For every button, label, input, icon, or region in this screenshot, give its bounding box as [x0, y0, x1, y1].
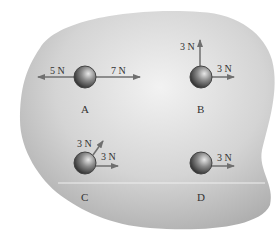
ball-icon — [190, 152, 212, 174]
diagram-canvas — [0, 0, 280, 240]
force-label: 3 N — [217, 153, 232, 163]
force-label: 3 N — [180, 42, 195, 52]
ball-icon — [74, 66, 96, 88]
ball-icon — [74, 152, 96, 174]
force-diagram: 5 N 7 N A 3 N 3 N B 3 N 3 N C 3 N D — [0, 0, 280, 240]
object-label: C — [81, 192, 88, 203]
force-label: 5 N — [50, 66, 65, 76]
ball-icon — [190, 66, 212, 88]
force-label: 3 N — [101, 152, 116, 162]
force-label: 3 N — [217, 64, 232, 74]
object-label: D — [197, 192, 205, 203]
background-blob — [20, 11, 275, 229]
object-label: A — [81, 104, 89, 115]
object-label: B — [197, 104, 204, 115]
force-label: 3 N — [77, 139, 92, 149]
force-label: 7 N — [111, 66, 126, 76]
